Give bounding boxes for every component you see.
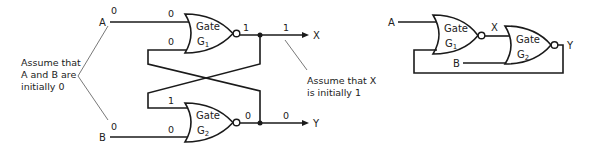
right-input-a-label: A: [388, 17, 395, 28]
input-b-label: B: [99, 132, 106, 143]
input-a-label: A: [99, 17, 106, 28]
right-gate-g1-word: Gate: [444, 23, 468, 34]
value-a-in: 0: [111, 5, 117, 16]
value-x-out: 1: [283, 22, 289, 33]
note-ab-line3: initially 0: [21, 81, 64, 92]
right-gate-g2-bubble: [551, 42, 558, 49]
output-y-label: Y: [312, 118, 320, 129]
right-gate-g1-bubble: [478, 32, 485, 39]
note-x-line2: is initially 1: [307, 87, 361, 98]
gate-g2-word: Gate: [196, 110, 220, 121]
value-b-in: 0: [111, 121, 117, 132]
note-ab-line1: Assume that: [21, 57, 81, 68]
gate-g2-bubble: [233, 119, 240, 126]
value-g2-out: 0: [245, 110, 251, 121]
value-g1-out: 1: [243, 22, 249, 33]
right-gate-g2-word: Gate: [516, 34, 540, 45]
gate-g1-word: Gate: [196, 21, 220, 32]
note-x-pointer: [285, 40, 307, 70]
value-g1-in-bottom: 0: [168, 36, 174, 47]
value-g1-in-top: 0: [168, 8, 174, 19]
arrow-x-icon: [302, 32, 309, 38]
value-y-out: 0: [283, 110, 289, 121]
right-input-b-label: B: [453, 58, 460, 69]
right-latch-diagram: A Gate G1 X B Gate G2 Y: [388, 15, 574, 73]
value-g2-in-top: 1: [168, 95, 174, 106]
note-ab-pointer: [78, 26, 108, 120]
note-x-line1: Assume that X: [307, 75, 377, 86]
note-ab-line2: A and B are: [21, 69, 76, 80]
output-x-label: X: [313, 30, 320, 41]
nor-latch-diagram: A 0 0 0 Gate G1 1 1 X 1 B 0 0 Gate G2: [0, 0, 590, 155]
left-latch-diagram: A 0 0 0 Gate G1 1 1 X 1 B 0 0 Gate G2: [21, 5, 377, 143]
arrow-y-icon: [302, 120, 309, 126]
value-g2-in-bottom: 0: [168, 124, 174, 135]
right-y-label: Y: [566, 40, 574, 51]
junction-y: [258, 121, 263, 126]
right-x-label: X: [491, 22, 498, 33]
gate-g1-bubble: [233, 30, 240, 37]
